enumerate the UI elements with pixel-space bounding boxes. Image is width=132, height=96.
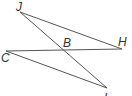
label-h: H xyxy=(118,35,127,49)
segment-cl xyxy=(6,51,107,88)
label-j: J xyxy=(15,0,23,14)
geometry-diagram: J B H C L xyxy=(0,0,132,96)
label-l: L xyxy=(104,91,111,96)
label-b: B xyxy=(63,36,71,50)
label-c: C xyxy=(1,51,10,65)
